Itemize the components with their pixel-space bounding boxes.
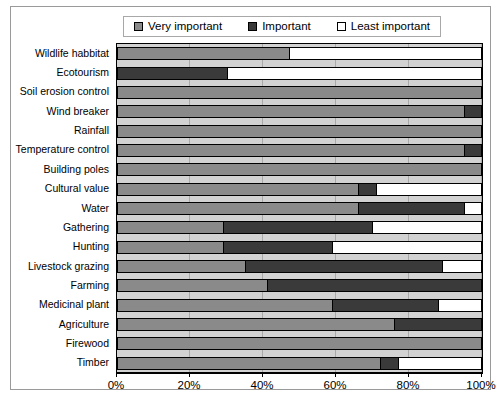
bar-row [117, 318, 482, 331]
bar-row [117, 260, 482, 273]
y-axis-label: Wildlife habbitat [35, 47, 109, 59]
legend-swatch-icon [337, 22, 346, 31]
x-axis-tick-label: 80% [396, 379, 419, 391]
y-axis-label: Ecotourism [56, 66, 109, 78]
bar-row [117, 202, 482, 215]
bar-segment [358, 202, 464, 215]
bar-segment [332, 299, 438, 312]
legend-item-label: Least important [351, 21, 430, 33]
x-axis-tick [335, 373, 336, 377]
bar-segment [117, 241, 223, 254]
bar-segment [117, 144, 464, 157]
bar-segment [117, 183, 358, 196]
y-axis-label: Wind breaker [47, 105, 109, 117]
bar-segment [289, 47, 482, 60]
x-axis-tick [408, 373, 409, 377]
bar-segment [227, 67, 483, 80]
y-axis-label: Rainfall [74, 124, 109, 136]
bar-segment [464, 144, 482, 157]
bar-segment [117, 202, 358, 215]
bar-row [117, 183, 482, 196]
y-axis-label: Building poles [44, 163, 109, 175]
bar-row [117, 105, 482, 118]
chart-frame: Very importantImportantLeast important W… [10, 6, 491, 390]
bar-row [117, 279, 482, 292]
x-axis-line [116, 372, 482, 374]
bar-segment [117, 279, 267, 292]
bar-segment [117, 125, 482, 138]
bar-segment [117, 163, 482, 176]
legend-item-label: Very important [148, 21, 222, 33]
bar-segment [464, 202, 482, 215]
legend-item: Very important [134, 21, 222, 33]
bar-row [117, 357, 482, 370]
bar-segment [117, 67, 227, 80]
legend-item: Important [248, 21, 311, 33]
legend-item: Least important [337, 21, 430, 33]
y-axis-label: Cultural value [45, 182, 109, 194]
bar-segment [372, 221, 482, 234]
bar-segment [464, 105, 482, 118]
legend-swatch-icon [248, 22, 257, 31]
bar-segment [223, 221, 373, 234]
bar-row [117, 144, 482, 157]
bar-segment [380, 357, 398, 370]
bar-row [117, 47, 482, 60]
plot-area [116, 43, 483, 374]
y-axis-labels: Wildlife habbitatEcotourismSoil erosion … [11, 43, 113, 372]
bar-row [117, 163, 482, 176]
y-axis-label: Hunting [73, 240, 109, 252]
bar-segment [438, 299, 482, 312]
x-axis-tick-label: 20% [177, 379, 200, 391]
bar-segment [117, 86, 482, 99]
y-axis-label: Timber [77, 356, 109, 368]
bar-segment [117, 357, 380, 370]
bar-segment [117, 318, 394, 331]
bar-row [117, 86, 482, 99]
bar-segment [117, 260, 245, 273]
y-axis-label: Agriculture [59, 318, 109, 330]
bar-segment [245, 260, 442, 273]
legend-item-label: Important [262, 21, 311, 33]
bar-segment [117, 337, 482, 350]
x-axis-tick [262, 373, 263, 377]
bar-segment [398, 357, 482, 370]
bar-segment [442, 260, 482, 273]
x-axis-tick-label: 60% [323, 379, 346, 391]
x-axis-tick-label: 0% [108, 379, 125, 391]
bar-row [117, 337, 482, 350]
x-axis-tick [189, 373, 190, 377]
chart-legend: Very importantImportantLeast important [123, 16, 441, 37]
y-axis-label: Medicinal plant [39, 298, 109, 310]
bar-segment [223, 241, 333, 254]
bar-row [117, 221, 482, 234]
bar-row [117, 67, 482, 80]
y-axis-label: Farming [70, 279, 109, 291]
x-axis-tick [481, 373, 482, 377]
y-axis-label: Firewood [66, 337, 109, 349]
bar-segment [267, 279, 482, 292]
y-axis-label: Livestock grazing [28, 260, 109, 272]
y-axis-label: Water [81, 202, 109, 214]
y-axis-label: Soil erosion control [20, 85, 109, 97]
bar-segment [117, 221, 223, 234]
bar-segment [117, 299, 332, 312]
y-axis-label: Temperature control [16, 143, 109, 155]
bar-segment [332, 241, 482, 254]
bar-segment [117, 105, 464, 118]
bar-segment [358, 183, 376, 196]
chart-screenshot: Very importantImportantLeast important W… [0, 0, 502, 401]
y-axis-label: Gathering [63, 221, 109, 233]
bar-row [117, 299, 482, 312]
bar-rows [117, 44, 482, 373]
bar-row [117, 125, 482, 138]
legend-swatch-icon [134, 22, 143, 31]
x-axis-tick-label: 40% [250, 379, 273, 391]
x-axis-tick [116, 373, 117, 377]
bar-segment [394, 318, 482, 331]
x-axis-tick-label: 100% [466, 379, 495, 391]
bar-segment [117, 47, 289, 60]
bar-row [117, 241, 482, 254]
bar-segment [376, 183, 482, 196]
